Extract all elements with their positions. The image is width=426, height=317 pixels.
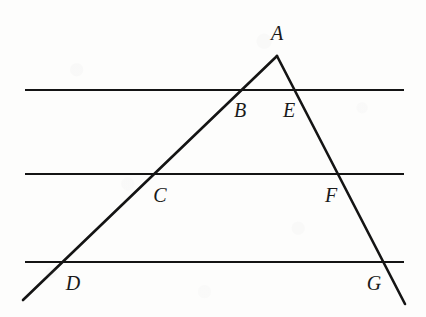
left-ray-ABCD (23, 56, 277, 300)
right-ray-AEFG (277, 56, 405, 304)
geometry-figure: A B E C F D G (0, 0, 426, 317)
point-label-F: F (325, 185, 337, 205)
point-label-C: C (153, 185, 166, 205)
point-label-A: A (271, 23, 283, 43)
diagram-canvas (0, 0, 426, 317)
point-label-D: D (66, 273, 80, 293)
point-label-E: E (283, 100, 295, 120)
point-label-G: G (367, 273, 381, 293)
point-label-B: B (234, 100, 246, 120)
